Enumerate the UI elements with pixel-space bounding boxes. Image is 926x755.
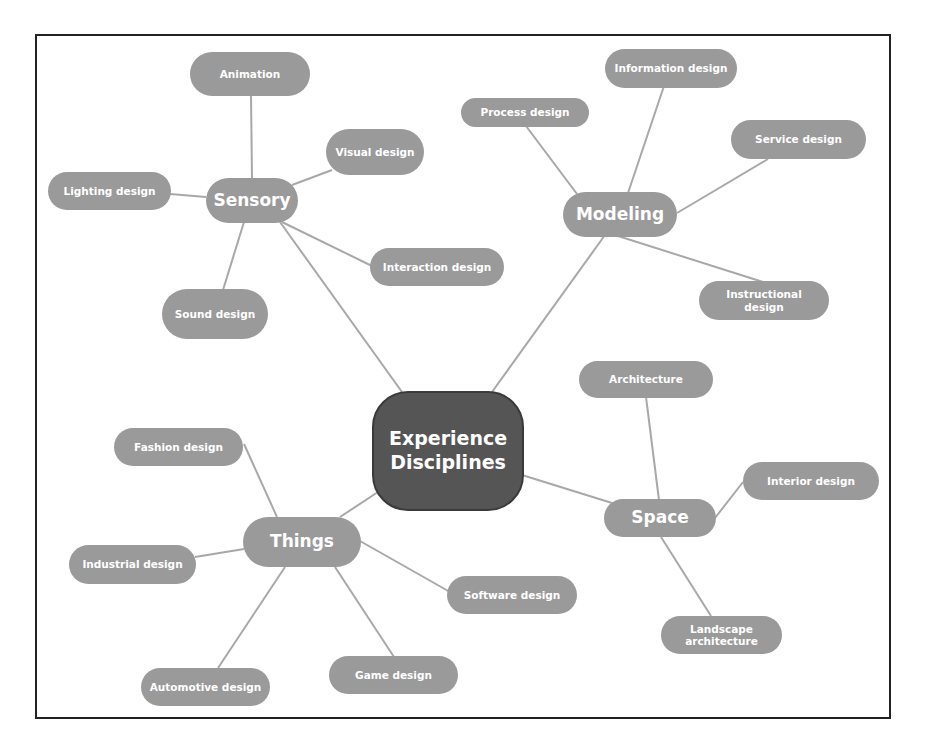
leaf-node-sound-design[interactable]: Sound design	[162, 289, 268, 339]
leaf-node-software-design[interactable]: Software design	[447, 576, 577, 614]
leaf-label: Interior design	[767, 475, 855, 487]
leaf-label: Industrial design	[82, 558, 182, 570]
leaf-node-architecture[interactable]: Architecture	[579, 361, 713, 398]
leaf-node-animation[interactable]: Animation	[190, 52, 310, 96]
branch-label: Space	[631, 508, 689, 528]
branch-node-space[interactable]: Space	[604, 499, 716, 537]
leaf-label: Animation	[220, 68, 281, 80]
leaf-node-fashion-design[interactable]: Fashion design	[114, 428, 243, 466]
branch-label: Things	[270, 532, 334, 552]
leaf-label-line2: architecture	[685, 635, 758, 647]
leaf-label: Information design	[615, 62, 728, 74]
leaf-node-interior-design[interactable]: Interior design	[743, 462, 879, 500]
leaf-node-process-design[interactable]: Process design	[461, 98, 589, 127]
leaf-node-service-design[interactable]: Service design	[731, 120, 866, 159]
leaf-node-game-design[interactable]: Game design	[329, 656, 458, 694]
leaf-label: Service design	[755, 133, 842, 145]
leaf-node-instructional-design[interactable]: Instructional design	[699, 281, 829, 320]
root-label-line2: Disciplines	[390, 451, 506, 475]
branch-node-sensory[interactable]: Sensory	[206, 178, 298, 223]
leaf-label: Software design	[464, 589, 561, 601]
leaf-node-information-design[interactable]: Information design	[605, 49, 737, 88]
leaf-label: Game design	[355, 669, 432, 681]
branch-label: Sensory	[213, 191, 290, 211]
leaf-label: Automotive design	[150, 681, 262, 693]
leaf-label: Visual design	[335, 146, 414, 158]
leaf-label: Process design	[480, 106, 569, 118]
leaf-node-automotive-design[interactable]: Automotive design	[141, 668, 270, 706]
root-label-line1: Experience	[389, 427, 507, 451]
leaf-node-visual-design[interactable]: Visual design	[326, 129, 424, 175]
branch-label: Modeling	[576, 205, 664, 225]
branch-node-things[interactable]: Things	[243, 517, 361, 567]
leaf-node-interaction-design[interactable]: Interaction design	[370, 248, 504, 286]
leaf-label: Sound design	[175, 308, 255, 320]
leaf-label-line2: design	[744, 301, 783, 313]
leaf-label: Architecture	[609, 373, 683, 385]
leaf-label: Fashion design	[134, 441, 223, 453]
leaf-node-lighting-design[interactable]: Lighting design	[48, 172, 171, 210]
leaf-label-line1: Landscape	[690, 623, 753, 635]
root-node-experience-disciplines[interactable]: Experience Disciplines	[372, 391, 524, 511]
leaf-node-landscape-architecture[interactable]: Landscape architecture	[661, 616, 782, 654]
leaf-node-industrial-design[interactable]: Industrial design	[69, 545, 196, 584]
leaf-label: Interaction design	[383, 261, 491, 273]
leaf-label-line1: Instructional	[726, 288, 802, 300]
branch-node-modeling[interactable]: Modeling	[563, 192, 677, 237]
leaf-label: Lighting design	[63, 185, 155, 197]
